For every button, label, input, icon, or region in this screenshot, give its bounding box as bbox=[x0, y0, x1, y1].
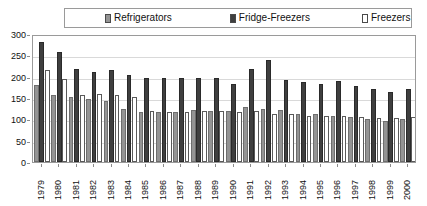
bar-group bbox=[208, 36, 225, 162]
bar-refrigerators-1981[interactable] bbox=[69, 97, 74, 162]
bar-freezers-1983[interactable] bbox=[115, 95, 120, 162]
bar-freezers-1992[interactable] bbox=[272, 114, 277, 162]
bar-fridge-freezers-1983[interactable] bbox=[109, 70, 114, 162]
bar-refrigerators-1993[interactable] bbox=[278, 110, 283, 162]
bar-fridge-freezers-1985[interactable] bbox=[144, 78, 149, 162]
bar-freezers-1987[interactable] bbox=[185, 112, 190, 162]
y-axis-tick-label: 150 bbox=[11, 95, 26, 104]
x-axis-tick-mark bbox=[128, 164, 129, 167]
bar-group bbox=[33, 36, 50, 162]
bar-freezers-1986[interactable] bbox=[167, 112, 172, 162]
bar-freezers-1982[interactable] bbox=[97, 94, 102, 162]
bar-fridge-freezers-1982[interactable] bbox=[92, 72, 97, 162]
bar-freezers-1985[interactable] bbox=[150, 111, 155, 162]
bar-fridge-freezers-1979[interactable] bbox=[39, 42, 44, 162]
bar-freezers-1993[interactable] bbox=[289, 114, 294, 162]
bar-freezers-1995[interactable] bbox=[324, 116, 329, 162]
x-axis-tick: 1996 bbox=[330, 164, 344, 206]
bar-refrigerators-1991[interactable] bbox=[243, 107, 248, 162]
bar-freezers-1990[interactable] bbox=[237, 112, 242, 162]
bar-fridge-freezers-1998[interactable] bbox=[371, 89, 376, 162]
y-axis-tick-mark bbox=[27, 56, 30, 57]
bar-fridge-freezers-1991[interactable] bbox=[249, 69, 254, 162]
x-axis-tick: 1999 bbox=[383, 164, 397, 206]
bar-refrigerators-2000[interactable] bbox=[400, 119, 405, 162]
x-axis-tick-label: 1995 bbox=[316, 180, 325, 200]
bar-refrigerators-1988[interactable] bbox=[191, 110, 196, 162]
bar-fridge-freezers-1989[interactable] bbox=[214, 78, 219, 162]
x-axis-tick-mark bbox=[268, 164, 269, 167]
legend-swatch-icon bbox=[230, 14, 236, 23]
bar-freezers-1979[interactable] bbox=[45, 70, 50, 162]
bar-fridge-freezers-1990[interactable] bbox=[231, 84, 236, 162]
bar-fridge-freezers-1992[interactable] bbox=[266, 60, 271, 162]
y-axis-tick-label: 250 bbox=[11, 52, 26, 61]
bar-refrigerators-1997[interactable] bbox=[348, 117, 353, 162]
bar-group bbox=[225, 36, 242, 162]
bar-freezers-1981[interactable] bbox=[80, 95, 85, 162]
x-axis-tick-label: 1983 bbox=[106, 180, 115, 200]
bar-fridge-freezers-1993[interactable] bbox=[284, 80, 289, 162]
bar-group bbox=[190, 36, 207, 162]
bar-refrigerators-1980[interactable] bbox=[51, 95, 56, 162]
x-axis-tick-mark bbox=[198, 164, 199, 167]
bar-refrigerators-1996[interactable] bbox=[331, 116, 336, 162]
bar-freezers-1996[interactable] bbox=[342, 116, 347, 162]
legend-item-freezers[interactable]: Freezers bbox=[362, 13, 410, 23]
bar-freezers-1999[interactable] bbox=[394, 118, 399, 162]
x-axis: 1979198019811982198319841985198619871988… bbox=[32, 164, 416, 206]
bar-fridge-freezers-1984[interactable] bbox=[127, 75, 132, 162]
bar-group bbox=[85, 36, 102, 162]
bar-group bbox=[173, 36, 190, 162]
bar-refrigerators-1986[interactable] bbox=[156, 112, 161, 162]
y-axis-tick-label: 100 bbox=[11, 116, 26, 125]
x-axis-tick: 1984 bbox=[121, 164, 135, 206]
bar-freezers-2000[interactable] bbox=[411, 117, 416, 162]
bar-freezers-1988[interactable] bbox=[202, 111, 207, 162]
x-axis-tick-mark bbox=[93, 164, 94, 167]
bar-fridge-freezers-1986[interactable] bbox=[162, 78, 167, 162]
bar-refrigerators-1983[interactable] bbox=[104, 101, 109, 162]
bar-freezers-1991[interactable] bbox=[254, 111, 259, 162]
bar-fridge-freezers-1996[interactable] bbox=[336, 81, 341, 162]
x-axis-tick: 1992 bbox=[261, 164, 275, 206]
bar-freezers-1989[interactable] bbox=[219, 111, 224, 162]
bar-refrigerators-1985[interactable] bbox=[139, 112, 144, 162]
bar-fridge-freezers-1999[interactable] bbox=[388, 92, 393, 162]
bar-fridge-freezers-1981[interactable] bbox=[74, 69, 79, 162]
bar-freezers-1984[interactable] bbox=[132, 97, 137, 162]
bar-group bbox=[365, 36, 382, 162]
legend-item-fridge-freezers[interactable]: Fridge-Freezers bbox=[230, 13, 310, 23]
bar-fridge-freezers-1980[interactable] bbox=[57, 52, 62, 162]
legend-item-refrigerators[interactable]: Refrigerators bbox=[105, 13, 172, 23]
bar-freezers-1998[interactable] bbox=[377, 118, 382, 162]
bar-freezers-1997[interactable] bbox=[359, 117, 364, 162]
bar-freezers-1994[interactable] bbox=[307, 116, 312, 162]
x-axis-tick-label: 1999 bbox=[385, 180, 394, 200]
bar-refrigerators-1990[interactable] bbox=[226, 111, 231, 162]
bar-refrigerators-1987[interactable] bbox=[173, 112, 178, 162]
bar-refrigerators-1994[interactable] bbox=[296, 114, 301, 162]
bar-fridge-freezers-1995[interactable] bbox=[319, 84, 324, 162]
bar-fridge-freezers-1988[interactable] bbox=[196, 78, 201, 162]
bar-refrigerators-1989[interactable] bbox=[208, 111, 213, 162]
bar-fridge-freezers-1994[interactable] bbox=[301, 82, 306, 162]
bar-refrigerators-1982[interactable] bbox=[86, 99, 91, 162]
x-axis-tick-label: 1997 bbox=[350, 180, 359, 200]
x-axis-tick-label: 1981 bbox=[71, 180, 80, 200]
x-axis-tick: 1985 bbox=[138, 164, 152, 206]
bar-refrigerators-1995[interactable] bbox=[313, 114, 318, 162]
bar-freezers-1980[interactable] bbox=[62, 79, 67, 162]
bar-refrigerators-1999[interactable] bbox=[383, 121, 388, 162]
bar-fridge-freezers-1997[interactable] bbox=[354, 86, 359, 162]
x-axis-tick-label: 1982 bbox=[89, 180, 98, 200]
bar-refrigerators-1998[interactable] bbox=[365, 119, 370, 162]
bar-refrigerators-1984[interactable] bbox=[121, 109, 126, 162]
x-axis-tick-mark bbox=[163, 164, 164, 167]
bar-fridge-freezers-1987[interactable] bbox=[179, 78, 184, 162]
bar-refrigerators-1979[interactable] bbox=[34, 85, 39, 162]
x-axis-tick-label: 1998 bbox=[368, 180, 377, 200]
bar-fridge-freezers-2000[interactable] bbox=[406, 89, 411, 162]
x-axis-tick: 1981 bbox=[69, 164, 83, 206]
bar-refrigerators-1992[interactable] bbox=[261, 109, 266, 162]
